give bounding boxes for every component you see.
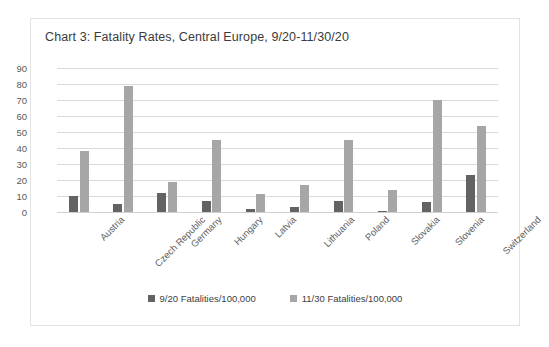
legend-swatch-icon <box>290 295 297 302</box>
bar[interactable] <box>388 190 397 212</box>
bar[interactable] <box>212 140 221 212</box>
bar-group <box>189 68 233 212</box>
y-axis-tick-label: 10 <box>16 191 27 202</box>
y-axis-tick-label: 70 <box>16 95 27 106</box>
bar[interactable] <box>69 196 78 212</box>
y-axis-tick-label: 60 <box>16 111 27 122</box>
x-axis-tick-label: Austria <box>98 214 127 243</box>
bar[interactable] <box>344 140 353 212</box>
bar[interactable] <box>246 209 255 212</box>
bar[interactable] <box>202 201 211 212</box>
bar[interactable] <box>80 151 89 212</box>
x-axis-tick-label: Slovenia <box>453 214 487 248</box>
y-axis-tick-label: 40 <box>16 143 27 154</box>
chart-legend: 9/20 Fatalities/100,00011/30 Fatalities/… <box>31 293 519 304</box>
x-axis-tick-label: Slovakia <box>408 214 441 247</box>
bar[interactable] <box>124 86 133 212</box>
bar[interactable] <box>300 185 309 212</box>
bar[interactable] <box>477 126 486 212</box>
bar[interactable] <box>422 202 431 212</box>
bar[interactable] <box>433 100 442 212</box>
legend-swatch-icon <box>148 295 155 302</box>
y-axis: 9080706050403020100 <box>5 68 27 212</box>
x-axis-tick-label: Latvia <box>273 214 299 240</box>
chart-container: Chart 3: Fatality Rates, Central Europe,… <box>30 18 520 326</box>
bar-group <box>278 68 322 212</box>
bar[interactable] <box>113 204 122 212</box>
bar-group <box>366 68 410 212</box>
y-axis-tick-label: 80 <box>16 79 27 90</box>
legend-label: 11/30 Fatalities/100,000 <box>302 293 403 304</box>
bar-group <box>57 68 101 212</box>
y-axis-tick-label: 90 <box>16 63 27 74</box>
bar[interactable] <box>378 211 387 212</box>
x-axis-tick-label: Poland <box>362 214 391 243</box>
legend-item[interactable]: 9/20 Fatalities/100,000 <box>148 293 256 304</box>
chart-title: Chart 3: Fatality Rates, Central Europe,… <box>45 30 349 44</box>
y-axis-tick-label: 50 <box>16 127 27 138</box>
bar[interactable] <box>334 201 343 212</box>
x-axis-tick-label: Hungary <box>232 214 265 247</box>
y-axis-tick-label: 20 <box>16 175 27 186</box>
legend-label: 9/20 Fatalities/100,000 <box>160 293 256 304</box>
bar[interactable] <box>290 207 299 212</box>
y-axis-tick-label: 0 <box>22 207 27 218</box>
bar-group <box>233 68 277 212</box>
gridline <box>57 212 498 213</box>
bars-layer <box>57 68 498 212</box>
bar-group <box>101 68 145 212</box>
bar-group <box>454 68 498 212</box>
legend-item[interactable]: 11/30 Fatalities/100,000 <box>290 293 403 304</box>
bar-group <box>145 68 189 212</box>
bar-group <box>322 68 366 212</box>
y-axis-tick-label: 30 <box>16 159 27 170</box>
bar[interactable] <box>157 193 166 212</box>
bar[interactable] <box>256 194 265 212</box>
bar[interactable] <box>168 182 177 212</box>
x-axis: AustriaCzech RepublicGermanyHungaryLatvi… <box>57 214 498 286</box>
bar[interactable] <box>466 175 475 212</box>
x-axis-tick-label: Switzerland <box>500 214 543 257</box>
plot-area <box>57 68 498 212</box>
bar-group <box>410 68 454 212</box>
x-axis-tick-label: Lithuania <box>321 214 356 249</box>
